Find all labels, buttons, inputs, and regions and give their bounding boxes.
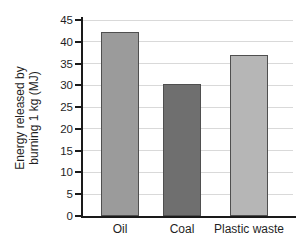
bar-chart-energy-per-kg: Energy released by burning 1 kg (MJ) 051…: [0, 0, 303, 250]
y-tick-label-45: 45: [43, 13, 73, 27]
y-tick-mark-30: [75, 84, 83, 86]
y-tick-label-35: 35: [43, 57, 73, 71]
y-tick-mark-35: [75, 63, 83, 65]
y-tick-mark-0: [75, 215, 83, 217]
y-axis-title-line-1: Energy released by: [13, 66, 27, 169]
y-tick-label-0: 0: [43, 209, 73, 223]
y-tick-label-25: 25: [43, 100, 73, 114]
bar-coal: [163, 84, 201, 216]
x-axis-line: [81, 216, 296, 218]
y-tick-mark-40: [75, 41, 83, 43]
y-tick-label-5: 5: [43, 187, 73, 201]
x-category-label-plastic-waste: Plastic waste: [214, 222, 284, 236]
y-axis-title: Energy released by burning 1 kg (MJ): [13, 66, 41, 169]
y-tick-mark-20: [75, 128, 83, 130]
y-tick-mark-25: [75, 106, 83, 108]
y-tick-mark-5: [75, 193, 83, 195]
y-tick-mark-15: [75, 150, 83, 152]
y-tick-label-10: 10: [43, 165, 73, 179]
y-tick-mark-45: [75, 19, 83, 21]
y-tick-label-40: 40: [43, 35, 73, 49]
gridline-y-45: [83, 20, 293, 21]
y-tick-label-20: 20: [43, 122, 73, 136]
y-axis-line: [81, 17, 83, 218]
x-category-label-oil: Oil: [113, 222, 128, 236]
y-tick-mark-10: [75, 171, 83, 173]
y-axis-title-line-2: burning 1 kg (MJ): [27, 66, 41, 169]
bar-plastic-waste: [230, 55, 268, 216]
y-tick-label-15: 15: [43, 144, 73, 158]
bar-oil: [101, 32, 139, 216]
x-category-label-coal: Coal: [170, 222, 195, 236]
y-tick-label-30: 30: [43, 78, 73, 92]
